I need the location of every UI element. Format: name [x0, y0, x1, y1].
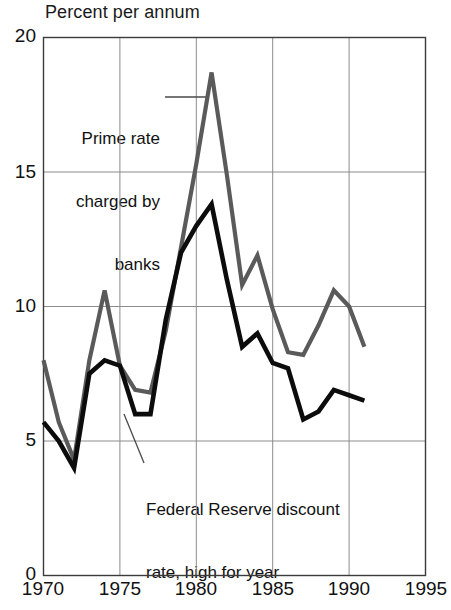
chart-container: Percent per annum 20 15 10 5 0 1970 1975…	[0, 0, 451, 610]
data-series-group	[44, 72, 365, 467]
series-line-discount-rate	[44, 204, 365, 468]
annotation-leader-lines	[124, 97, 207, 463]
leader-line-discount-rate	[124, 414, 144, 463]
plot-svg	[0, 0, 451, 610]
series-line-prime-rate	[44, 72, 365, 459]
